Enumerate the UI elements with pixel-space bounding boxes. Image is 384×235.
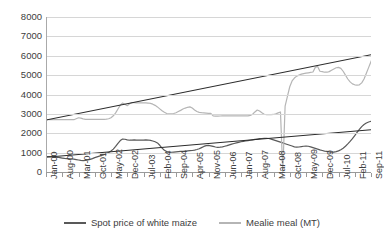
x-tick [322,173,323,177]
x-tick [355,173,356,177]
x-tick [144,173,145,177]
x-tick-label: Sep-04 [180,150,189,179]
x-tick [46,173,47,177]
x-tick-label: Mar-08 [278,150,287,179]
x-tick-label: Aug-07 [261,150,270,179]
x-tick-label: Aug-00 [66,150,75,179]
chart-container: 010002000300040005000600070008000 Jan-00… [0,0,384,235]
legend-label: Mealie meal (MT) [246,218,320,228]
x-tick [290,173,291,177]
y-tick-label: 5000 [2,70,42,80]
series-line [46,27,371,172]
x-tick-label: Dec-02 [131,150,140,179]
x-tick-label: Dec-09 [326,150,335,179]
x-tick-label: Feb-11 [359,151,368,179]
x-tick [371,173,372,177]
x-tick [62,173,63,177]
x-tick-label: Oct-01 [99,152,108,179]
x-tick [241,173,242,177]
x-tick [209,173,210,177]
plot-area [46,17,371,172]
y-tick-label: 8000 [2,12,42,22]
x-tick-label: Sep-11 [375,151,384,179]
legend-item[interactable]: Spot price of white maize [64,218,197,228]
x-tick [111,173,112,177]
gridline [46,95,371,96]
y-axis-line [46,17,47,173]
x-tick-label: Jun-06 [229,151,238,179]
x-tick-label: Jan-00 [50,151,59,179]
x-tick [192,173,193,177]
gridline [46,56,371,57]
x-tick [274,173,275,177]
series-line [46,121,371,160]
y-tick-label: 6000 [2,51,42,61]
x-tick [79,173,80,177]
gridline [46,75,371,76]
x-tick-label: Apr-05 [196,152,205,179]
x-tick-label: Feb-04 [164,150,173,179]
x-tick [257,173,258,177]
chart-legend: Spot price of white maizeMealie meal (MT… [0,214,384,232]
x-tick [160,173,161,177]
legend-label: Spot price of white maize [91,218,197,228]
gridline [46,36,371,37]
x-tick-label: Jul-03 [148,154,157,179]
x-tick-label: Jul-10 [343,154,352,179]
x-tick [306,173,307,177]
x-tick [176,173,177,177]
x-tick [127,173,128,177]
y-tick-label: 7000 [2,31,42,41]
trendline [46,55,371,120]
x-tick-label: Mar-01 [83,150,92,179]
y-tick-label: 2000 [2,128,42,138]
gridline [46,17,371,18]
x-tick [225,173,226,177]
legend-item[interactable]: Mealie meal (MT) [219,218,320,228]
y-tick-label: 3000 [2,109,42,119]
x-tick-label: May-02 [115,149,124,179]
x-tick [339,173,340,177]
legend-color-swatch [219,222,241,224]
y-tick-label: 4000 [2,90,42,100]
gridline [46,153,371,154]
gridline [46,133,371,134]
y-tick-label: 1000 [2,148,42,158]
gridline [46,114,371,115]
x-tick-label: Oct-08 [294,152,303,179]
legend-color-swatch [64,222,86,224]
x-tick [95,173,96,177]
x-tick-label: May-09 [310,149,319,179]
x-tick-label: Nov-05 [213,150,222,179]
x-tick-label: Jan-07 [245,151,254,179]
